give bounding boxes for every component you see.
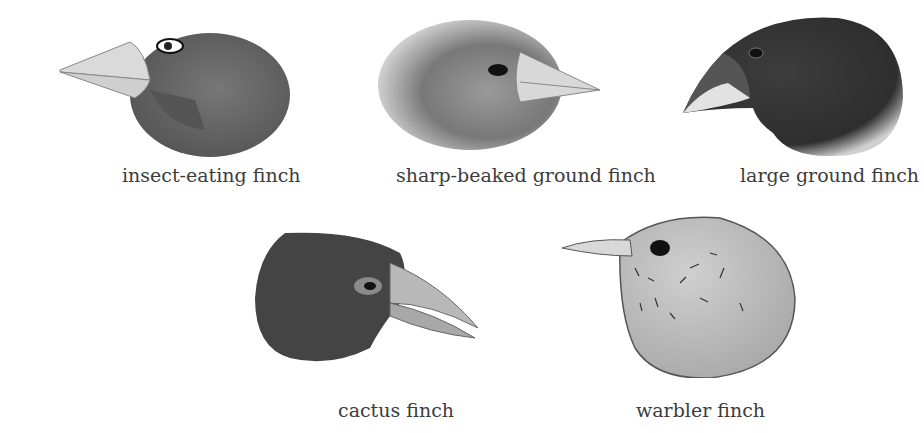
large-ground-finch-label: large ground finch (740, 164, 919, 186)
large-ground-finch-illustration (678, 8, 918, 158)
insect-eating-finch-label: insect-eating finch (122, 164, 301, 186)
warbler-finch-illustration (560, 208, 810, 378)
cactus-finch-label: cactus finch (338, 399, 454, 421)
cactus-finch-illustration (250, 228, 480, 368)
insect-eating-finch-illustration (55, 10, 295, 160)
sharp-beaked-ground-finch-illustration (370, 10, 610, 155)
sharp-beaked-ground-finch-label: sharp-beaked ground finch (396, 164, 656, 186)
warbler-finch-label: warbler finch (636, 399, 765, 421)
